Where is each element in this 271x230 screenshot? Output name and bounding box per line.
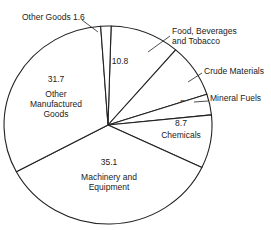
slice-category-label: Other Goods 1.6 — [22, 12, 85, 22]
slice-value-label: 8.7 — [175, 118, 187, 128]
slice-category-label: Other — [45, 89, 66, 99]
pie-chart: 10.8Food, Beveragesand Tobacco8.7Crude M… — [0, 0, 271, 230]
slice-category-label: Equipment — [89, 182, 130, 192]
slice-category-label: Mineral Fuels — [210, 93, 261, 103]
slice-value-label: 31.7 — [48, 74, 65, 84]
slice-value-label: 10.8 — [112, 56, 129, 66]
slice-value-label: 35.1 — [101, 157, 118, 167]
slice-category-label: Manufactured — [30, 99, 82, 109]
slice-category-label: Crude Materials — [204, 66, 264, 76]
slice-category-label: Machinery and — [81, 172, 137, 182]
slice-category-label: Goods — [43, 109, 68, 119]
slice-category-label: and Tobacco — [172, 36, 220, 46]
slice-category-label: Food, Beverages — [172, 26, 237, 36]
slice-category-label: Chemicals — [161, 130, 201, 140]
